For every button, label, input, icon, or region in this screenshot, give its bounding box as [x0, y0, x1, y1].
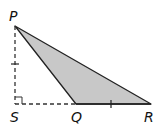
shaded-triangle-pqr [15, 26, 151, 104]
label-s: S [10, 109, 19, 125]
label-q: Q [71, 109, 82, 125]
right-angle-marker [15, 97, 22, 104]
label-p: P [9, 8, 18, 24]
label-r: R [144, 109, 154, 125]
geometry-diagram: P S Q R [0, 0, 166, 132]
